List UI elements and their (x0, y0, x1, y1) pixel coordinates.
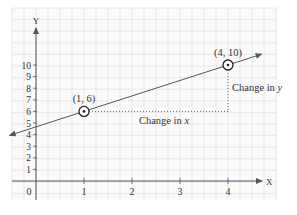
x-tick-label: 4 (226, 186, 231, 197)
y-tick-label: 3 (26, 142, 31, 152)
y-tick-label: 6 (26, 107, 31, 117)
origin-label: 0 (27, 186, 32, 197)
x-tick-label: 2 (130, 186, 135, 197)
change-in-x-label: Change in x (139, 115, 190, 126)
y-tick-label: 8 (26, 84, 31, 94)
y-tick-label: 4 (26, 130, 31, 140)
y-tick-label: 7 (26, 95, 31, 105)
y-tick-label: 2 (26, 153, 31, 163)
y-tick-label: 1 (26, 165, 31, 175)
x-axis-label: X (266, 177, 273, 187)
y-axis-label: Y (33, 16, 40, 26)
x-tick-label: 3 (178, 186, 183, 197)
y-tick-label: 5 (26, 119, 31, 129)
x-tick-label: 1 (82, 186, 87, 197)
point-label: (4, 10) (214, 47, 242, 59)
y-tick-label: 9 (26, 72, 31, 82)
slope-chart: YX 1234123456789100 (1, 6)(4, 10) Change… (0, 0, 297, 215)
change-in-y-label: Change in y (232, 82, 283, 93)
grid (12, 8, 277, 200)
point-label: (1, 6) (73, 93, 96, 105)
y-tick-label: 10 (22, 61, 32, 71)
